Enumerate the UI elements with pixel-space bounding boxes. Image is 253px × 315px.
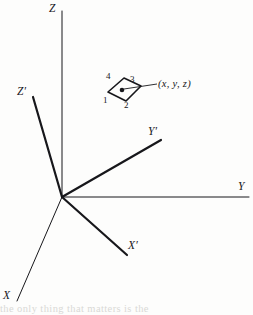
axis-label-y-prime: Y′ (148, 126, 157, 138)
axis-line-x (17, 197, 62, 301)
axis-label-y: Y (238, 181, 245, 193)
axis-line-x-prime (62, 197, 127, 255)
vertex-label-4: 4 (106, 72, 111, 81)
coordinate-diagram-svg (0, 0, 253, 315)
axis-line-z-prime (33, 97, 62, 197)
point-marker-dot (120, 88, 125, 93)
point-coordinate-label: (x, y, z) (158, 79, 191, 90)
surface-element-polygon (108, 78, 141, 101)
axis-label-x: X (3, 290, 10, 302)
axis-label-x-prime: X′ (128, 240, 138, 252)
axis-label-z-prime: Z′ (17, 86, 26, 98)
axis-label-z: Z (49, 3, 56, 15)
leader-line (124, 84, 157, 89)
vertex-label-1: 1 (103, 96, 108, 105)
axis-line-y-prime (62, 140, 161, 197)
axes-group (17, 11, 249, 301)
figure-container: Z Y X Z′ Y′ X′ 1 2 3 4 (x, y, z) the onl… (0, 0, 253, 315)
page-bleed-text: the only thing that matters is the (0, 303, 253, 314)
vertex-label-2: 2 (124, 101, 129, 110)
vertex-label-3: 3 (130, 75, 135, 84)
